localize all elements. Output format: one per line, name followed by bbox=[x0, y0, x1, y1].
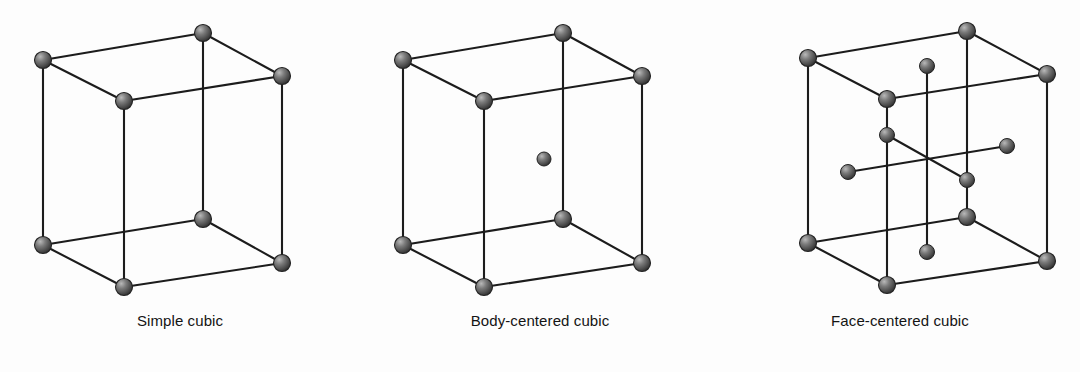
atom-corner-bottom-left bbox=[800, 235, 817, 252]
atom-corner-top-left bbox=[800, 50, 817, 67]
simple-cubic-atoms bbox=[35, 25, 291, 296]
body-centered-cubic-caption: Body-centered cubic bbox=[360, 312, 720, 329]
atom-corner-top-right bbox=[634, 68, 651, 85]
atom-corner-top-back bbox=[195, 25, 212, 42]
atom-face-center-bottom bbox=[920, 245, 935, 260]
bcc-edges bbox=[403, 33, 642, 287]
atom-face-center-left bbox=[841, 165, 856, 180]
atom-corner-top-back bbox=[959, 23, 976, 40]
simple-cubic-edges bbox=[43, 33, 282, 287]
atom-corner-bottom-front bbox=[879, 277, 896, 294]
atom-face-center-top bbox=[920, 59, 935, 74]
atom-corner-top-back bbox=[555, 25, 572, 42]
atom-face-center-front bbox=[880, 128, 895, 143]
face-centered-cubic-caption: Face-centered cubic bbox=[720, 312, 1080, 329]
atom-face-center-back bbox=[960, 173, 975, 188]
simple-cubic-diagram: Simple cubic bbox=[0, 0, 360, 372]
atom-corner-top-left bbox=[395, 52, 412, 69]
body-centered-cubic-diagram: Body-centered cubic bbox=[360, 0, 720, 372]
atom-corner-bottom-left bbox=[35, 237, 52, 254]
body-centered-cubic-svg bbox=[360, 0, 720, 310]
atom-corner-bottom-front bbox=[116, 279, 133, 296]
atom-corner-top-left bbox=[35, 52, 52, 69]
face-centered-cubic-svg bbox=[720, 0, 1080, 310]
fcc-face-center-bonds bbox=[848, 66, 1007, 252]
cubic-lattice-figure: Simple cubic bbox=[0, 0, 1080, 372]
atom-corner-bottom-back bbox=[555, 211, 572, 228]
simple-cubic-svg bbox=[0, 0, 360, 310]
atom-corner-bottom-right bbox=[1039, 253, 1056, 270]
atom-corner-top-right bbox=[1039, 66, 1056, 83]
atom-face-center-right bbox=[1000, 139, 1015, 154]
atom-corner-bottom-right bbox=[634, 255, 651, 272]
face-centered-cubic-diagram: Face-centered cubic bbox=[720, 0, 1080, 372]
atom-corner-top-front bbox=[879, 91, 896, 108]
simple-cubic-caption: Simple cubic bbox=[0, 312, 360, 329]
atom-corner-bottom-back bbox=[959, 209, 976, 226]
atom-corner-top-front bbox=[476, 93, 493, 110]
atom-corner-top-front bbox=[116, 93, 133, 110]
bcc-atoms bbox=[395, 25, 651, 296]
atom-corner-bottom-left bbox=[395, 237, 412, 254]
atom-corner-bottom-back bbox=[195, 211, 212, 228]
atom-corner-bottom-right bbox=[274, 255, 291, 272]
atom-body-center bbox=[537, 152, 551, 166]
atom-corner-bottom-front bbox=[476, 279, 493, 296]
atom-corner-top-right bbox=[274, 68, 291, 85]
